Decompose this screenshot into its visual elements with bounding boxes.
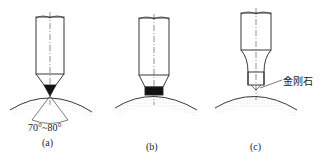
diagram-canvas — [0, 0, 323, 160]
figure-b — [115, 14, 197, 118]
figure-a — [10, 12, 92, 124]
caption-c: (c) — [250, 141, 261, 152]
caption-a: (a) — [42, 137, 53, 148]
angle-label: 70°~80° — [28, 122, 61, 133]
diamond-callout: 金刚石 — [283, 73, 313, 88]
figure-c — [215, 8, 297, 118]
caption-b: (b) — [146, 141, 158, 152]
